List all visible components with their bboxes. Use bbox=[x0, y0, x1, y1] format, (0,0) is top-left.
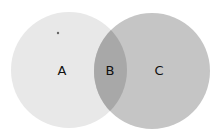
label-a: A bbox=[58, 63, 67, 78]
label-c: C bbox=[154, 63, 163, 78]
dot-mark bbox=[57, 32, 59, 34]
venn-diagram: A B C bbox=[0, 0, 221, 134]
label-b: B bbox=[106, 63, 115, 78]
